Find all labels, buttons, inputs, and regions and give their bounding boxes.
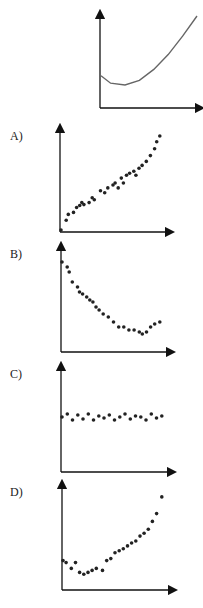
data-point <box>132 169 136 173</box>
data-point <box>67 270 71 274</box>
data-point <box>134 414 138 418</box>
data-point <box>106 186 110 190</box>
data-point <box>75 206 79 210</box>
data-point <box>129 417 133 421</box>
data-point <box>127 328 131 332</box>
data-point <box>142 531 146 535</box>
data-point <box>160 414 164 418</box>
data-point <box>134 173 138 177</box>
data-point <box>105 559 109 563</box>
data-point <box>139 415 143 419</box>
data-point <box>65 265 69 269</box>
data-point <box>122 181 126 185</box>
data-point <box>71 418 75 422</box>
data-point <box>78 571 82 575</box>
data-point <box>160 495 164 499</box>
data-point <box>138 330 142 334</box>
data-point <box>113 418 117 422</box>
data-point <box>64 561 68 565</box>
data-point <box>120 176 124 180</box>
data-point <box>81 417 85 421</box>
data-point <box>101 312 105 316</box>
data-point <box>66 412 70 416</box>
data-point <box>122 547 126 551</box>
data-point <box>93 198 97 202</box>
data-point <box>103 191 107 195</box>
data-point <box>97 308 101 312</box>
data-point <box>153 147 157 151</box>
data-point <box>102 416 106 420</box>
data-point <box>155 512 159 516</box>
data-point <box>90 569 94 573</box>
data-point <box>60 260 64 264</box>
data-point <box>144 418 148 422</box>
data-point <box>87 201 91 205</box>
data-point <box>147 527 151 531</box>
data-point <box>64 218 68 222</box>
data-point <box>87 412 91 416</box>
data-point <box>130 541 134 545</box>
data-point <box>116 186 120 190</box>
data-point <box>117 325 121 329</box>
data-point <box>141 332 145 336</box>
data-point <box>158 134 162 138</box>
data-point <box>118 415 122 419</box>
data-point <box>122 325 126 329</box>
reference-curve <box>101 16 197 85</box>
data-point <box>72 211 76 215</box>
data-point <box>155 416 159 420</box>
data-point <box>153 322 157 326</box>
data-point <box>137 167 141 171</box>
data-point <box>150 412 154 416</box>
data-point <box>70 567 74 571</box>
data-point <box>76 413 80 417</box>
data-point <box>117 549 121 553</box>
data-point <box>78 290 82 294</box>
data-point <box>82 203 86 207</box>
data-point <box>123 412 127 416</box>
data-point <box>94 305 98 309</box>
plots-canvas <box>0 0 203 608</box>
data-point <box>92 418 96 422</box>
data-point <box>109 557 113 561</box>
data-point <box>82 573 86 577</box>
data-point <box>107 315 111 319</box>
data-point <box>138 534 142 538</box>
data-point <box>132 328 136 332</box>
data-point <box>134 539 138 543</box>
data-point <box>126 544 130 548</box>
data-point <box>71 280 75 284</box>
data-point <box>128 171 132 175</box>
data-point <box>60 415 64 419</box>
data-point <box>88 298 92 302</box>
data-point <box>151 520 155 524</box>
data-point <box>76 285 80 289</box>
data-point <box>101 569 105 573</box>
data-point <box>113 181 117 185</box>
data-point <box>95 567 99 571</box>
data-point <box>61 559 65 563</box>
data-point <box>74 561 78 565</box>
data-point <box>91 300 95 304</box>
data-point <box>158 320 162 324</box>
data-point <box>99 189 103 193</box>
data-point <box>149 154 153 158</box>
data-point <box>145 160 149 164</box>
data-point <box>78 204 82 208</box>
data-point <box>108 413 112 417</box>
data-point <box>85 295 89 299</box>
data-point <box>59 228 63 232</box>
data-point <box>155 140 159 144</box>
data-point <box>113 551 117 555</box>
data-point <box>125 173 129 177</box>
data-point <box>81 292 85 296</box>
data-point <box>112 320 116 324</box>
data-point <box>149 325 153 329</box>
data-point <box>97 414 101 418</box>
data-point <box>145 330 149 334</box>
data-point <box>86 571 90 575</box>
data-point <box>67 213 71 217</box>
data-point <box>140 164 144 168</box>
